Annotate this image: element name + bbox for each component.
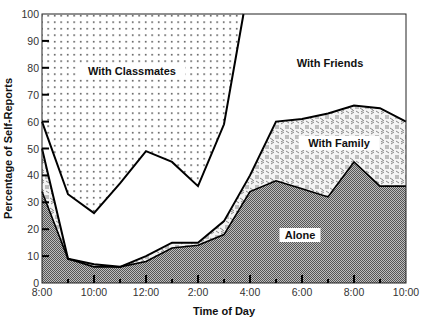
x-tick-label: 6:00	[292, 286, 313, 298]
x-tick-label: 8:00	[344, 286, 365, 298]
x-tick-label: 8:00	[32, 286, 53, 298]
x-tick-label: 2:00	[188, 286, 209, 298]
label-with-friends: With Friends	[297, 57, 364, 69]
y-tick-label: 30	[27, 196, 39, 208]
y-axis-title: Percentage of Self-Reports	[2, 78, 14, 219]
y-tick-label: 90	[27, 35, 39, 47]
y-tick-label: 40	[27, 169, 39, 181]
label-with-family: With Family	[308, 137, 371, 149]
x-axis-title: Time of Day	[193, 305, 256, 317]
stacked-area-chart: 01020304050607080901008:0010:0012:002:00…	[0, 0, 426, 331]
x-tick-label: 10:00	[81, 286, 107, 298]
y-tick-label: 50	[27, 143, 39, 155]
y-tick-label: 60	[27, 116, 39, 128]
y-tick-label: 70	[27, 89, 39, 101]
y-tick-label: 100	[21, 8, 39, 20]
y-tick-label: 80	[27, 62, 39, 74]
label-with-classmates: With Classmates	[88, 65, 176, 77]
label-alone: Alone	[285, 229, 316, 241]
x-tick-label: 10:00	[393, 286, 419, 298]
x-tick-label: 12:00	[133, 286, 159, 298]
x-tick-label: 4:00	[240, 286, 261, 298]
y-tick-label: 20	[27, 223, 39, 235]
y-tick-label: 10	[27, 250, 39, 262]
